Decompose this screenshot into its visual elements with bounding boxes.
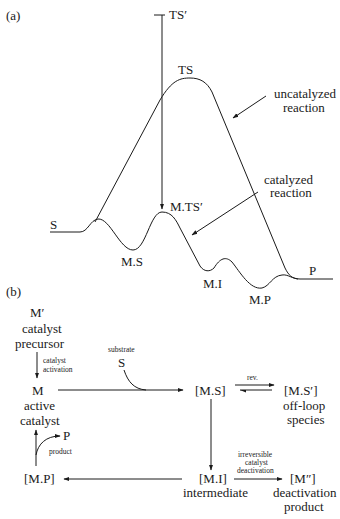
active-symbol: M xyxy=(32,383,44,398)
uncatalyzed-label-line1: uncatalyzed xyxy=(274,86,337,101)
catalyzed-curve xyxy=(50,212,333,288)
ts-label: TS xyxy=(178,62,193,77)
offloop-line2: species xyxy=(287,412,325,427)
mpp-node: [M″] xyxy=(290,471,316,486)
mi-label: M.I xyxy=(203,276,222,291)
deact-line1: deactivation xyxy=(273,485,337,500)
panel-b-label: (b) xyxy=(6,284,21,299)
substrate-curve xyxy=(124,370,146,390)
s-label: S xyxy=(50,217,57,232)
uncatalyzed-pointer-arrow xyxy=(233,96,266,118)
p-label: P xyxy=(309,263,316,278)
mp-node: [M.P] xyxy=(24,471,55,486)
panel-a-label: (a) xyxy=(6,8,20,23)
ms-label: M.S xyxy=(121,254,143,269)
ms-prime-node: [M.S′] xyxy=(284,383,318,398)
catalyzed-label-line2: reaction xyxy=(270,185,312,200)
panel-a-energy-profile: (a) TS′ TS S M.TS′ M.S M.I M.P P uncatal… xyxy=(6,7,337,307)
active-line2: catalyst xyxy=(20,413,60,428)
activation-label-line1: catalyst xyxy=(43,356,67,365)
active-line1: active xyxy=(24,398,55,413)
mp-label: M.P xyxy=(249,292,271,307)
mi-desc: intermediate xyxy=(183,485,248,500)
rev-label: rev. xyxy=(247,373,258,382)
ms-node: [M.S] xyxy=(195,383,226,398)
product-symbol: P xyxy=(63,428,70,443)
product-label: product xyxy=(49,447,73,456)
activation-label-line2: activation xyxy=(43,365,73,374)
ts-prime-label: TS′ xyxy=(169,7,187,22)
offloop-line1: off-loop xyxy=(283,398,325,413)
uncatalyzed-label-line2: reaction xyxy=(283,100,325,115)
irrev-label-line3: deactivation xyxy=(237,466,274,475)
substrate-symbol: S xyxy=(118,355,125,370)
mts-prime-label: M.TS′ xyxy=(170,199,203,214)
precursor-line2: precursor xyxy=(15,336,65,351)
substrate-label: substrate xyxy=(108,345,135,354)
precursor-symbol: M′ xyxy=(30,305,45,320)
panel-b-catalytic-cycle: (b) M′ catalyst precursor catalyst activ… xyxy=(6,284,337,514)
deact-line2: product xyxy=(284,499,324,514)
precursor-line1: catalyst xyxy=(22,321,62,336)
mi-node: [M.I] xyxy=(199,471,227,486)
catalysis-figure: (a) TS′ TS S M.TS′ M.S M.I M.P P uncatal… xyxy=(0,0,340,519)
